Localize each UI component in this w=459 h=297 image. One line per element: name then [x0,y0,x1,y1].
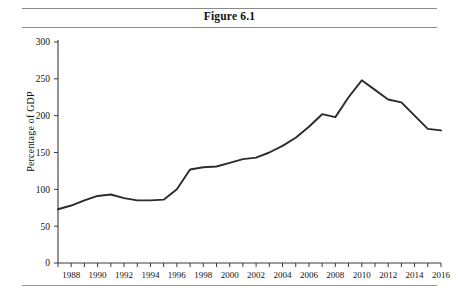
y-tick-label: 0 [45,258,50,268]
x-tick-label: 1988 [62,270,81,280]
y-tick-label: 250 [36,74,51,84]
y-axis-title: Percentage of GDP [25,62,36,202]
y-tick-label: 150 [36,148,51,158]
rule-bottom [22,285,437,286]
rule-under-title [22,27,437,28]
figure-title: Figure 6.1 [0,10,459,22]
x-tick-label: 2014 [406,270,425,280]
x-tick-label: 2002 [247,270,265,280]
rule-top [22,8,437,9]
x-tick-label: 2016 [432,270,451,280]
line-chart: 0501001502002503001988199019921994199619… [0,30,459,280]
chart-area: Percentage of GDP 0501001502002503001988… [0,30,459,280]
x-tick-label: 1992 [115,270,133,280]
x-tick-label: 2000 [221,270,240,280]
y-tick-label: 200 [36,111,51,121]
y-tick-label: 100 [36,185,51,195]
data-series-line [58,80,441,209]
x-tick-label: 1994 [141,270,160,280]
x-tick-label: 1990 [89,270,108,280]
x-tick-label: 2008 [326,270,345,280]
x-tick-label: 1996 [168,270,187,280]
x-tick-label: 2006 [300,270,319,280]
figure-page: Figure 6.1 Percentage of GDP 05010015020… [0,0,459,297]
y-tick-label: 300 [36,37,51,47]
x-tick-label: 2004 [274,270,293,280]
x-tick-label: 2010 [353,270,372,280]
y-tick-label: 50 [41,222,51,232]
x-tick-label: 1998 [194,270,213,280]
x-tick-label: 2012 [379,270,397,280]
